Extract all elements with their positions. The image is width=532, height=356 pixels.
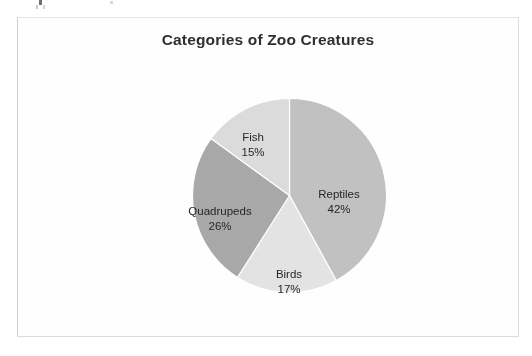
pie-label-reptiles-name: Reptiles (294, 187, 384, 202)
scan-artifact (0, 0, 532, 14)
pie-label-fish-name: Fish (214, 130, 292, 145)
chart-title: Categories of Zoo Creatures (18, 31, 518, 49)
pie-label-fish: Fish 15% (214, 130, 292, 160)
pie-label-birds: Birds 17% (246, 267, 332, 297)
pie-label-fish-percent: 15% (214, 145, 292, 160)
chart-frame: Categories of Zoo Creatures Reptiles 42%… (17, 17, 519, 337)
scan-speck-icon (36, 5, 38, 9)
scan-speck-icon (39, 0, 42, 5)
pie-label-reptiles-percent: 42% (294, 202, 384, 217)
pie-label-reptiles: Reptiles 42% (294, 187, 384, 217)
pie-label-quadrupeds-name: Quadrupeds (167, 204, 273, 219)
pie-label-birds-name: Birds (246, 267, 332, 282)
pie-label-quadrupeds: Quadrupeds 26% (167, 204, 273, 234)
pie-label-quadrupeds-percent: 26% (167, 219, 273, 234)
scan-speck-icon (43, 5, 45, 9)
scan-speck-icon (110, 1, 113, 4)
pie-label-birds-percent: 17% (246, 282, 332, 297)
